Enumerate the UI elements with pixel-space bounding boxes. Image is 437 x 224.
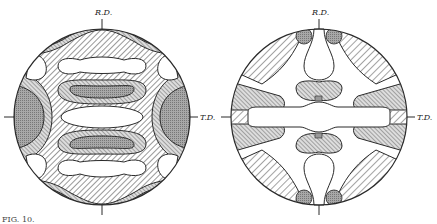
- right-td-label: T.D.: [417, 113, 432, 122]
- pole-figures: R.D. T.D.: [0, 0, 437, 224]
- figure-caption: FIG. 10.: [2, 215, 35, 224]
- right-rd-label: R.D.: [311, 8, 329, 17]
- left-td-label: T.D.: [200, 113, 215, 122]
- right-pole-figure: R.D. T.D.: [221, 8, 432, 215]
- left-rd-label: R.D.: [94, 8, 112, 17]
- left-pole-figure: R.D. T.D.: [4, 8, 215, 215]
